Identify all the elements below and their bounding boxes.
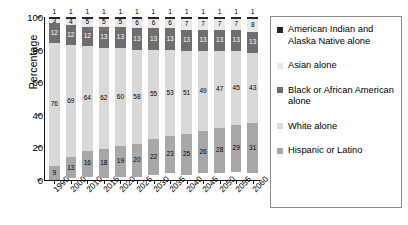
bar-segment: 7 — [231, 19, 242, 30]
bar-value-label: 1 — [251, 9, 255, 16]
bar-2060: 18134331 — [247, 17, 258, 180]
bar-value-label: 1 — [234, 9, 238, 16]
bar-value-label: 8 — [251, 22, 255, 29]
bar-value-label: 64 — [84, 95, 91, 102]
bar-value-label: 5 — [119, 19, 123, 26]
bar-value-label: 25 — [183, 151, 190, 158]
bar-segment: 13 — [181, 30, 192, 51]
bar-value-label: 6 — [135, 20, 139, 27]
bar-value-label: 7 — [218, 21, 222, 28]
bar-value-label: 55 — [150, 91, 157, 98]
bar-value-label: 1 — [168, 9, 172, 16]
bar-value-label: 13 — [199, 37, 206, 44]
bar-value-label: 18 — [100, 160, 107, 167]
bar-value-label: 45 — [233, 85, 240, 92]
bar-segment: 43 — [247, 53, 258, 123]
bar-2010: 15126416 — [82, 17, 93, 180]
bar-value-label: 60 — [117, 94, 124, 101]
bar-value-label: 62 — [100, 95, 107, 102]
bar-2050: 17134728 — [214, 17, 225, 180]
bar-segment: 5 — [115, 19, 126, 27]
bar-segment: 51 — [181, 51, 192, 134]
bar-value-label: 1 — [152, 9, 156, 16]
bar-segment: 31 — [247, 123, 258, 174]
legend-swatch — [277, 87, 283, 93]
bar-value-label: 43 — [249, 85, 256, 92]
bar-segment: 60 — [115, 48, 126, 146]
bar-segment: 29 — [231, 125, 242, 172]
bar-value-label: 1 — [201, 9, 205, 16]
bar-2015: 15136218 — [99, 17, 110, 180]
bar-segment: 53 — [165, 50, 176, 136]
bar-value-label: 7 — [185, 21, 189, 28]
bar-segment: 6 — [132, 19, 143, 29]
bar-segment: 13 — [165, 28, 176, 49]
bar-value-label: 19 — [117, 158, 124, 165]
bar-value-label: 1 — [185, 9, 189, 16]
bar-value-label: 12 — [67, 32, 74, 39]
bar-2040: 17135125 — [181, 17, 192, 180]
legend-swatch — [277, 148, 283, 154]
bar-value-label: 1 — [119, 9, 123, 16]
legend-item: White alone — [277, 121, 396, 133]
bar-value-label: 58 — [133, 94, 140, 101]
bar-value-label: 12 — [51, 30, 58, 37]
legend-label: Hispanic or Latino — [288, 145, 362, 157]
legend-label: White alone — [288, 121, 337, 133]
bar-segment: 69 — [66, 45, 77, 157]
bar-segment: 20 — [132, 144, 143, 177]
bar-segment: 28 — [214, 128, 225, 174]
y-axis: 020406080100 — [0, 0, 43, 225]
legend-item: Asian alone — [277, 60, 396, 72]
bar-segment: 13 — [99, 27, 110, 48]
bar-segment: 7 — [181, 19, 192, 30]
bar-segment: 23 — [165, 136, 176, 173]
legend-item: Hispanic or Latino — [277, 145, 396, 157]
bar-value-label: 51 — [183, 90, 190, 97]
legend-swatch — [277, 63, 283, 69]
bar-segment: 5 — [99, 19, 110, 27]
bar-segment: 13 — [214, 30, 225, 51]
bar-value-label: 5 — [86, 19, 90, 26]
chart-legend: American Indian and Alaska Native aloneA… — [270, 16, 402, 208]
bar-value-label: 31 — [249, 145, 256, 152]
bar-value-label: 13 — [166, 36, 173, 43]
bar-segment: 13 — [231, 30, 242, 51]
bar-2030: 16135522 — [148, 17, 159, 180]
legend-item: Black or African American alone — [277, 85, 396, 108]
bar-segment: 62 — [99, 48, 110, 149]
bar-segment: 7 — [198, 19, 209, 30]
y-axis-line — [44, 17, 45, 180]
bar-value-label: 13 — [249, 39, 256, 46]
plot-area: 1312769199014126913200015126416201015136… — [44, 17, 259, 180]
bar-value-label: 13 — [67, 165, 74, 172]
bar-segment: 19 — [115, 146, 126, 177]
bar-value-label: 13 — [150, 36, 157, 43]
bar-value-label: 49 — [199, 88, 206, 95]
bar-segment: 58 — [132, 50, 143, 145]
bar-value-label: 76 — [51, 101, 58, 108]
bar-value-label: 1 — [85, 9, 89, 16]
bar-value-label: 47 — [216, 86, 223, 93]
y-tick-mark — [37, 82, 41, 83]
bar-value-label: 1 — [135, 9, 139, 16]
bar-2035: 16135323 — [165, 17, 176, 180]
bar-2045: 17134926 — [198, 17, 209, 180]
bar-value-label: 4 — [69, 19, 73, 26]
bar-segment: 47 — [214, 51, 225, 128]
bar-value-label: 6 — [152, 20, 156, 27]
bar-value-label: 26 — [199, 149, 206, 156]
bar-segment: 6 — [148, 19, 159, 29]
bar-value-label: 6 — [168, 20, 172, 27]
bar-value-label: 7 — [201, 21, 205, 28]
y-tick-mark — [37, 17, 41, 18]
bar-segment: 12 — [82, 27, 93, 47]
bar-segment: 13 — [148, 28, 159, 49]
bar-value-label: 20 — [133, 157, 140, 164]
legend-label: American Indian and Alaska Native alone — [288, 24, 396, 47]
bar-value-label: 1 — [69, 9, 73, 16]
bar-2000: 14126913 — [66, 17, 77, 180]
y-tick-mark — [37, 49, 41, 50]
bar-value-label: 7 — [234, 21, 238, 28]
y-tick-mark — [37, 180, 41, 181]
